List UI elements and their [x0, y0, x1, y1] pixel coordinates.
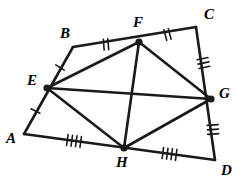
vertex-label-H: H [116, 155, 128, 170]
vertex-label-D: D [221, 163, 232, 178]
tick-HD-4 [175, 149, 176, 160]
tick-GD-2 [208, 129, 219, 130]
geometry-figure: ABCDEFGH [0, 0, 242, 187]
edge-E-F [47, 42, 139, 88]
vertex-label-F: F [133, 15, 143, 30]
tick-BF-2 [108, 39, 109, 50]
tick-GD-3 [208, 134, 219, 135]
vertex-label-G: G [219, 86, 230, 101]
tick-HD-1 [162, 148, 163, 159]
tick-GD-1 [207, 125, 218, 126]
tick-AH-2 [71, 135, 73, 146]
point-dot-H [120, 144, 127, 151]
edge-G-H [124, 99, 211, 148]
tick-CG [197, 57, 210, 68]
tick-AH-3 [75, 136, 77, 147]
point-dot-F [135, 38, 142, 45]
vertex-label-C: C [204, 7, 214, 22]
inner-quadrilateral-and-diagonals [47, 42, 211, 148]
vertex-label-A: A [6, 131, 16, 146]
tick-HD-2 [167, 148, 168, 159]
vertex-label-B: B [60, 26, 70, 41]
tick-BF-1 [103, 39, 104, 50]
point-dot-E [43, 84, 50, 91]
tick-AH-1 [67, 135, 69, 146]
tick-CG-1 [197, 57, 208, 59]
edge-E-G [47, 88, 211, 99]
vertex-label-E: E [27, 73, 37, 88]
point-dot-G [207, 95, 214, 102]
tick-HD-3 [171, 149, 172, 160]
tick-AH-4 [80, 136, 82, 147]
